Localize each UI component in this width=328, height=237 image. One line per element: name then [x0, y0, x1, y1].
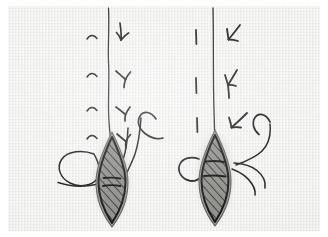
right-tendril — [234, 163, 265, 188]
right-body-crossbar-1 — [205, 161, 224, 162]
left-tick-arc-4 — [87, 136, 97, 139]
left-tick-arc-3 — [87, 108, 97, 111]
right-hook-cane — [253, 114, 270, 134]
right-stem-line — [213, 8, 215, 142]
right-tick-arrow-1 — [227, 25, 240, 41]
left-tick-arrow-1 — [117, 23, 129, 40]
left-tick-arrow-2 — [116, 71, 131, 88]
figure-right-group — [179, 8, 270, 226]
left-stem-line — [108, 8, 111, 146]
right-tick-arrow-3 — [229, 113, 247, 128]
scan-sheet — [0, 0, 328, 237]
right-body-crossbar-2 — [204, 176, 225, 177]
figure-left-group — [58, 8, 163, 227]
left-body-crossbar-1 — [104, 178, 121, 179]
right-hook-sweep — [236, 124, 270, 165]
right-tick-arrow-2 — [225, 70, 237, 98]
left-hook-cane — [138, 112, 163, 138]
paper-surface — [8, 6, 320, 231]
left-tick-arc-1 — [87, 36, 97, 39]
left-tick-arc-2 — [87, 74, 97, 77]
drawing-artwork — [8, 6, 320, 231]
left-body-crossbar-2 — [103, 185, 121, 186]
left-tick-arrow-3 — [116, 107, 130, 121]
